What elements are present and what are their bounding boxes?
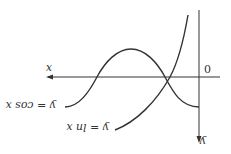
- y-axis-label: y: [199, 135, 207, 148]
- graph-diagram: 0 x y y = cos x y = ln x: [0, 0, 231, 154]
- x-axis: [46, 75, 220, 80]
- ln-curve-label: y = ln x: [65, 121, 110, 134]
- ln-curve: [115, 15, 188, 130]
- origin-label: 0: [204, 62, 211, 75]
- graph-svg: 0 x y y = cos x y = ln x: [0, 0, 231, 154]
- cos-curve: [65, 49, 199, 107]
- cos-curve-label: y = cos x: [5, 99, 57, 112]
- x-axis-label: x: [45, 62, 52, 75]
